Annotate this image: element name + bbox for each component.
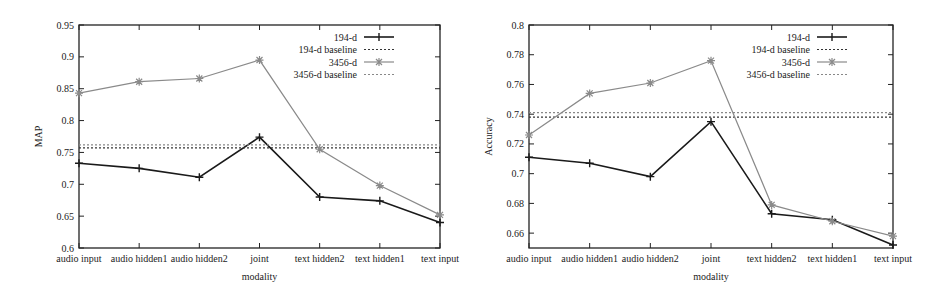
accuracy-chart-plot: 0.660.680.70.720.740.760.780.8audio inpu…: [483, 20, 912, 283]
y-tick-label: 0.7: [62, 179, 75, 190]
plus-marker: [75, 159, 83, 167]
x-axis-label: modality: [693, 271, 729, 282]
x-tick-label: joint: [701, 253, 721, 264]
plus-marker: [586, 159, 594, 167]
y-tick-label: 0.8: [512, 20, 525, 31]
star-marker: [586, 89, 594, 97]
y-tick-label: 0.85: [57, 83, 75, 94]
star-marker: [768, 201, 776, 209]
y-tick-label: 0.66: [507, 228, 525, 239]
x-tick-label: audio hidden2: [622, 253, 679, 264]
plus-marker: [436, 219, 444, 227]
x-tick-label: joint: [249, 253, 269, 264]
star-marker: [436, 211, 444, 219]
series-line: [529, 61, 893, 236]
plus-marker: [525, 153, 533, 161]
star-marker: [376, 182, 384, 190]
series-line: [529, 122, 893, 245]
map-chart: 0.60.650.70.750.80.850.90.95audio inputa…: [0, 0, 945, 304]
star-marker: [195, 75, 203, 83]
legend-label: 3456-d baseline: [293, 69, 357, 80]
x-tick-label: audio hidden1: [111, 253, 168, 264]
x-tick-label: text hidden2: [295, 253, 345, 264]
legend: 194-d194-d baseline3456-d3456-d baseline: [746, 32, 847, 81]
y-tick-label: 0.6: [62, 243, 75, 254]
legend-label: 3456-d: [782, 57, 810, 68]
y-tick-label: 0.95: [57, 20, 75, 31]
y-tick-label: 0.8: [62, 115, 75, 126]
star-marker: [889, 232, 897, 240]
legend-label: 194-d baseline: [751, 44, 810, 55]
x-tick-label: text hidden1: [807, 253, 857, 264]
plus-marker: [376, 197, 384, 205]
star-marker: [707, 57, 715, 65]
legend: 194-d194-d baseline3456-d3456-d baseline: [293, 32, 394, 81]
y-axis-label: Accuracy: [483, 117, 494, 155]
y-tick-label: 0.76: [507, 79, 525, 90]
y-tick-label: 0.7: [512, 168, 525, 179]
x-tick-label: text hidden2: [747, 253, 797, 264]
y-tick-label: 0.75: [57, 147, 75, 158]
y-tick-label: 0.65: [57, 211, 75, 222]
y-tick-label: 0.74: [507, 109, 525, 120]
y-axis-label: MAP: [33, 125, 44, 147]
star-marker: [135, 78, 143, 86]
star-marker: [75, 89, 83, 97]
legend-label: 194-d: [334, 32, 357, 43]
star-marker: [828, 217, 836, 225]
star-marker: [525, 131, 533, 139]
star-marker: [256, 56, 264, 64]
legend-label: 3456-d baseline: [746, 69, 810, 80]
star-marker: [316, 145, 324, 153]
map-chart-plot: 0.60.650.70.750.80.850.90.95audio inputa…: [33, 20, 459, 283]
y-tick-label: 0.78: [507, 49, 525, 60]
plus-marker: [135, 164, 143, 172]
y-tick-label: 0.68: [507, 198, 525, 209]
legend-label: 3456-d: [329, 57, 357, 68]
x-tick-label: audio input: [506, 253, 551, 264]
x-tick-label: text hidden1: [355, 253, 405, 264]
x-tick-label: text input: [874, 253, 912, 264]
series-line: [79, 137, 440, 222]
y-tick-label: 0.9: [62, 51, 75, 62]
x-tick-label: audio input: [56, 253, 101, 264]
figure: 0.60.650.70.750.80.850.90.95audio inputa…: [0, 0, 945, 304]
y-tick-label: 0.72: [507, 138, 525, 149]
legend-label: 194-d: [787, 32, 810, 43]
x-axis-label: modality: [242, 271, 278, 282]
legend-label: 194-d baseline: [298, 44, 357, 55]
x-tick-label: text input: [421, 253, 459, 264]
x-tick-label: audio hidden1: [561, 253, 618, 264]
x-tick-label: audio hidden2: [171, 253, 228, 264]
star-marker: [646, 79, 654, 87]
